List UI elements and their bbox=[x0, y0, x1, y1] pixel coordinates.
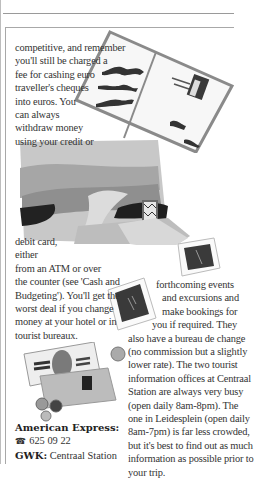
text-line: can always bbox=[15, 108, 125, 121]
text-line: also have a bureau de change bbox=[128, 332, 254, 345]
contact-amex: American Express: bbox=[15, 421, 119, 434]
contact-gwk: GWK: Centraal Station bbox=[15, 449, 119, 462]
paragraph-right: forthcoming events and excursions and ma… bbox=[128, 278, 254, 479]
contact-label: GWK: bbox=[15, 450, 47, 461]
text-line: (no commission but a slightly bbox=[128, 345, 254, 358]
telephone-icon: ☎ bbox=[15, 436, 26, 446]
text-line: debit card, bbox=[15, 235, 120, 248]
text-line: lower rate). The two tourist bbox=[128, 358, 254, 371]
text-line: forthcoming events bbox=[156, 278, 254, 291]
text-line: worst deal if you change bbox=[15, 302, 120, 315]
text-line: from an ATM or over bbox=[15, 262, 120, 275]
text-line: one in Leidesplein (open daily bbox=[128, 412, 254, 425]
text-line: Station are always very busy bbox=[128, 385, 254, 398]
text-line: (open daily 8am-8pm). The bbox=[128, 399, 254, 412]
text-line: information as possible prior to bbox=[128, 452, 254, 465]
text-line: information offices at Centraal bbox=[128, 372, 254, 385]
page-edge bbox=[0, 0, 1, 464]
phone-number: 625 09 22 bbox=[29, 435, 71, 446]
landscape-collage-illustration bbox=[18, 140, 198, 245]
text-line: the counter (see 'Cash and bbox=[15, 275, 120, 288]
text-line: into euros. You bbox=[15, 95, 125, 108]
banknotes-and-coins-illustration bbox=[20, 342, 130, 422]
photo-snapshot-illustration bbox=[174, 236, 222, 278]
header-rule bbox=[3, 13, 234, 14]
text-line: your trip. bbox=[128, 466, 254, 479]
text-line: using your credit or bbox=[15, 135, 125, 148]
text-line: and excursions and bbox=[162, 291, 254, 304]
text-line: 8am-7pm) is far less crowded, bbox=[128, 425, 254, 438]
text-line: traveller's cheques bbox=[15, 81, 125, 94]
contact-value: Centraal Station bbox=[50, 450, 117, 461]
text-line: you if required. They bbox=[152, 318, 254, 331]
frame-rule-left bbox=[5, 27, 6, 464]
text-line: competitive, and remember bbox=[15, 41, 125, 54]
text-line: tourist bureaux. bbox=[15, 329, 120, 342]
contact-label: American Express: bbox=[15, 422, 119, 433]
text-line: withdraw money bbox=[15, 121, 125, 134]
text-line: money at your hotel or in bbox=[15, 315, 120, 328]
text-line: either bbox=[15, 248, 120, 261]
text-line: but it's best to find out as much bbox=[128, 439, 254, 452]
text-line: fee for cashing euro bbox=[15, 68, 125, 81]
paragraph-left-bottom: debit card, either from an ATM or over t… bbox=[15, 235, 120, 342]
text-line: Budgeting'). You'll get the bbox=[15, 289, 120, 302]
paragraph-left-top: competitive, and remember you'll still b… bbox=[15, 41, 125, 148]
contact-amex-phone: ☎625 09 22 bbox=[15, 434, 119, 448]
text-line: make bookings for bbox=[162, 305, 254, 318]
text-line: you'll still be charged a bbox=[15, 54, 125, 67]
contacts-block: American Express: ☎625 09 22 GWK: Centra… bbox=[15, 421, 119, 462]
